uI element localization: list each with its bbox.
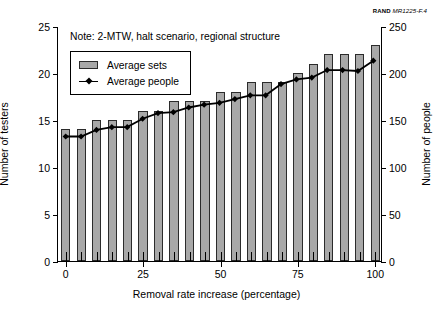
x-minor-tick <box>236 252 237 261</box>
y-tick-label-left: 10 <box>38 163 50 174</box>
x-tick-label: 0 <box>63 269 69 280</box>
bar <box>355 54 364 261</box>
bar <box>231 92 240 261</box>
y-tick-left <box>53 27 58 28</box>
bar <box>262 82 271 261</box>
credit-org: RAND <box>373 8 391 14</box>
bar <box>324 54 333 261</box>
y-tick-label-right: 100 <box>389 163 407 174</box>
y-tick-left <box>53 121 58 122</box>
x-tick-label: 100 <box>366 269 384 280</box>
x-minor-tick <box>344 252 345 261</box>
x-minor-tick <box>174 252 175 261</box>
y-tick-right <box>381 215 386 216</box>
bar <box>340 54 349 261</box>
y-tick-right <box>381 74 386 75</box>
y-tick-label-right: 50 <box>389 210 401 221</box>
bar <box>61 129 70 261</box>
x-tick <box>66 261 67 267</box>
bar <box>200 101 209 261</box>
credit-figure-id: MR1225-F.4 <box>392 7 427 14</box>
x-minor-tick <box>329 252 330 261</box>
x-minor-tick <box>143 252 144 261</box>
legend-item-average-sets: Average sets <box>79 57 179 73</box>
figure-panel: RAND MR1225-F.4 Number of testers Number… <box>0 0 433 311</box>
x-minor-tick <box>159 252 160 261</box>
x-minor-tick <box>298 252 299 261</box>
y-axis-title-left: Number of testers <box>0 102 10 185</box>
x-minor-tick <box>221 252 222 261</box>
bar <box>138 111 147 261</box>
legend-label-average-people: Average people <box>107 76 179 87</box>
x-minor-tick <box>97 252 98 261</box>
x-minor-tick <box>251 252 252 261</box>
y-tick-left <box>53 262 58 263</box>
bar <box>278 82 287 261</box>
y-tick-label-right: 200 <box>389 69 407 80</box>
y-tick-label-left: 20 <box>38 69 50 80</box>
bar <box>77 129 86 261</box>
y-tick-right <box>381 121 386 122</box>
y-tick-label-right: 150 <box>389 116 407 127</box>
x-tick <box>375 261 376 267</box>
x-minor-tick <box>190 252 191 261</box>
bar <box>169 101 178 261</box>
bar <box>92 120 101 261</box>
legend-label-average-sets: Average sets <box>107 60 167 71</box>
bar-swatch-icon <box>79 61 98 69</box>
x-minor-tick <box>360 252 361 261</box>
y-tick-left <box>53 74 58 75</box>
x-minor-tick <box>375 252 376 261</box>
bar <box>185 101 194 261</box>
y-tick-left <box>53 168 58 169</box>
x-tick <box>221 261 222 267</box>
y-tick-label-left: 0 <box>44 257 50 268</box>
x-tick-label: 25 <box>137 269 149 280</box>
bar <box>216 92 225 261</box>
y-tick-label-left: 15 <box>38 116 50 127</box>
y-tick-right <box>381 262 386 263</box>
source-credit: RAND MR1225-F.4 <box>373 7 427 14</box>
x-minor-tick <box>112 252 113 261</box>
x-minor-tick <box>66 252 67 261</box>
x-tick <box>298 261 299 267</box>
bar <box>293 73 302 261</box>
y-tick-label-left: 25 <box>38 22 50 33</box>
x-minor-tick <box>267 252 268 261</box>
x-minor-tick <box>81 252 82 261</box>
x-axis-title: Removal rate increase (percentage) <box>0 288 433 300</box>
y-tick-label-right: 0 <box>389 257 395 268</box>
bar <box>371 45 380 261</box>
bar <box>123 120 132 261</box>
x-minor-tick <box>282 252 283 261</box>
y-tick-right <box>381 27 386 28</box>
y-tick-left <box>53 215 58 216</box>
bar <box>247 82 256 261</box>
bar <box>154 111 163 261</box>
y-axis-title-right: Number of people <box>420 102 432 185</box>
x-tick-label: 50 <box>215 269 227 280</box>
x-minor-tick <box>313 252 314 261</box>
y-tick-right <box>381 168 386 169</box>
bar <box>309 64 318 261</box>
x-tick-label: 75 <box>292 269 304 280</box>
x-minor-tick <box>128 252 129 261</box>
x-minor-tick <box>205 252 206 261</box>
chart-legend: Average sets Average people <box>70 51 191 95</box>
x-tick <box>143 261 144 267</box>
bar <box>108 120 117 261</box>
y-tick-label-right: 250 <box>389 22 407 33</box>
chart-note: Note: 2-MTW, halt scenario, regional str… <box>70 31 280 42</box>
legend-item-average-people: Average people <box>79 73 179 89</box>
line-diamond-icon <box>79 77 98 85</box>
y-tick-label-left: 5 <box>44 210 50 221</box>
